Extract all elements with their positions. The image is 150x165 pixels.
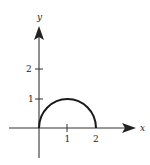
x-tick-label-2: 2 <box>93 134 99 144</box>
y-axis-label: y <box>36 12 43 22</box>
x-tick-label-1: 1 <box>65 134 71 144</box>
y-tick-label-2: 2 <box>26 64 32 74</box>
y-tick-label-1: 1 <box>28 94 34 104</box>
graph-diagram: x y 2 1 1 2 <box>0 0 150 165</box>
x-axis-label: x <box>140 123 145 133</box>
semicircle-curve <box>39 99 96 128</box>
